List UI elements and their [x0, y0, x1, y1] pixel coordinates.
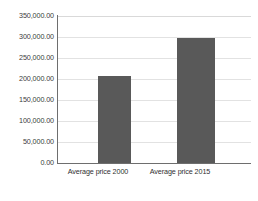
x-tick-label-average-price-2000: Average price 2000: [58, 167, 138, 176]
y-tick-label-100000: 100,000.00: [19, 117, 54, 125]
x-tick-label-average-price-2015: Average price 2015: [140, 167, 220, 176]
gridline-150000: [57, 100, 251, 101]
gridline-200000: [57, 79, 251, 80]
x-axis-line: [57, 163, 251, 164]
gridline-250000: [57, 58, 251, 59]
y-tick-label-0: 0.00: [40, 159, 54, 167]
bar-average-price-2015: [177, 38, 215, 163]
gridline-100000: [57, 121, 251, 122]
y-tick-label-50000: 50,000.00: [23, 138, 54, 146]
bar-average-price-2000: [98, 76, 131, 163]
y-axis-labels: 350,000.00 300,000.00 250,000.00 200,000…: [0, 0, 54, 201]
y-tick-label-300000: 300,000.00: [19, 33, 54, 41]
y-tick-label-200000: 200,000.00: [19, 75, 54, 83]
y-tick-label-250000: 250,000.00: [19, 54, 54, 62]
bar-chart: 350,000.00 300,000.00 250,000.00 200,000…: [0, 0, 258, 201]
y-tick-label-150000: 150,000.00: [19, 96, 54, 104]
y-tick-label-350000: 350,000.00: [19, 12, 54, 20]
gridline-300000: [57, 37, 251, 38]
gridline-50000: [57, 142, 251, 143]
plot-area: [57, 16, 251, 163]
y-axis-line: [57, 15, 58, 164]
gridline-350000: [57, 16, 251, 17]
